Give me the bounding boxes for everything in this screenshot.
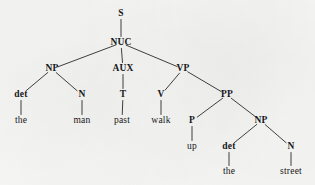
tree-node-s: S [118,9,123,19]
tree-leaf-past: past [114,116,130,126]
tree-node-v: V [157,90,164,100]
tree-node-t: T [120,90,127,100]
tree-edge-NP2-to-det2 [234,124,257,142]
tree-node-n2: N [287,142,294,152]
tree-edge-NP2-to-N2 [265,125,286,143]
tree-node-nuc: NUC [110,38,131,48]
tree-edge-NP1-to-N1 [56,73,77,91]
tree-edge-NUC-to-VP [126,45,177,66]
tree-node-np2: NP [254,116,267,126]
tree-node-pp: PP [221,90,233,100]
tree-leaf-walk: walk [151,116,170,126]
tree-edge-NP1-to-det1 [26,73,48,91]
tree-node-np1: NP [45,64,58,74]
tree-leaf-the2: the [223,167,235,177]
tree-node-n1: N [78,90,85,100]
tree-edge-VP-to-PP [188,72,222,92]
tree-leaf-up: up [187,142,197,152]
tree-leaf-man: man [74,116,91,126]
tree-edge-VP-to-V [165,73,179,90]
tree-edge-T-to-past [122,101,123,115]
tree-leaf-street: street [280,167,302,177]
tree-node-aux: AUX [112,64,133,74]
syntax-tree-diagram: SNUCNPAUXVPdetNTVPPthemanpastwalkPNPupde… [0,0,315,185]
tree-node-p: P [189,116,195,126]
tree-node-det2: det [222,142,235,152]
tree-edge-PP-to-NP2 [231,98,255,117]
tree-edge-NUC-to-AUX [121,48,122,62]
tree-node-det1: det [14,90,27,100]
tree-leaf-the1: the [15,116,27,126]
tree-edge-NUC-to-NP1 [58,45,116,67]
tree-node-vp: VP [176,64,189,74]
tree-edge-PP-to-P [197,98,222,117]
